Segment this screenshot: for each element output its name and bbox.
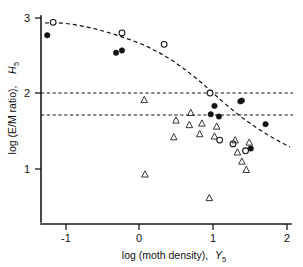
data-point-open-triangle <box>142 171 149 177</box>
data-point-open-triangle <box>239 158 246 164</box>
data-point-filled-circle <box>119 48 124 53</box>
data-point-open-triangle <box>173 117 180 123</box>
data-point-filled-circle <box>239 98 244 103</box>
data-point-filled-circle <box>248 146 253 151</box>
y-tick-label-3: 3 <box>24 12 30 24</box>
data-point-filled-circle <box>208 112 213 117</box>
data-point-filled-circle <box>113 50 118 55</box>
fit-curve-path <box>45 23 290 147</box>
data-point-open-triangle <box>199 120 206 126</box>
data-point-filled-circle <box>212 103 217 108</box>
data-point-open-triangle <box>188 109 195 115</box>
y-tick-label-2: 2 <box>24 87 30 99</box>
data-point-open-triangle <box>171 134 178 140</box>
y-axis-title-main: log (E/M ratio), <box>6 86 18 155</box>
data-point-open-triangle <box>243 166 250 172</box>
x-tick-label-1: 1 <box>210 232 216 244</box>
x-axis-title-subscript: 5 <box>222 255 226 264</box>
x-axis-ticks <box>66 224 287 230</box>
data-point-open-circle <box>207 90 213 96</box>
data-point-open-triangle <box>186 121 193 127</box>
data-point-open-triangle <box>141 96 148 102</box>
data-point-open-circle <box>230 141 236 147</box>
data-point-open-triangle <box>211 133 218 139</box>
y-axis-title-subscript: 5 <box>12 62 21 66</box>
data-point-filled-circle <box>216 114 221 119</box>
reference-lines <box>41 93 293 115</box>
data-point-open-circle <box>50 19 56 25</box>
y-tick-labels: 3 2 1 <box>24 12 30 175</box>
x-tick-label-neg1: -1 <box>61 232 71 244</box>
data-point-filled-circle <box>45 33 50 38</box>
y-axis-title: log (E/M ratio), H 5 <box>6 62 21 155</box>
data-point-open-triangle <box>234 149 241 155</box>
data-point-open-circle <box>243 148 249 154</box>
chart-figure: 3 2 1 -1 0 1 2 log (E/M ratio), H 5 log … <box>0 0 303 267</box>
data-point-open-triangle <box>246 139 253 145</box>
x-tick-labels: -1 0 1 2 <box>61 232 290 244</box>
x-axis-title-main: log (moth density), <box>122 249 208 261</box>
data-point-open-triangle <box>206 194 213 200</box>
x-axis-title: log (moth density), Y 5 <box>122 249 226 264</box>
y-tick-label-1: 1 <box>24 163 30 175</box>
x-tick-label-0: 0 <box>136 232 142 244</box>
data-markers <box>45 19 269 200</box>
y-axis-ticks <box>35 18 41 169</box>
data-point-open-circle <box>161 41 167 47</box>
x-tick-label-2: 2 <box>284 232 290 244</box>
data-point-open-triangle <box>213 123 220 129</box>
scatter-plot: 3 2 1 -1 0 1 2 log (E/M ratio), H 5 log … <box>0 0 303 267</box>
y-axis-title-symbol: H <box>6 66 18 74</box>
fit-curve <box>45 23 290 147</box>
data-point-filled-circle <box>263 121 268 126</box>
data-point-open-triangle <box>196 131 203 137</box>
data-point-open-circle <box>119 30 125 36</box>
